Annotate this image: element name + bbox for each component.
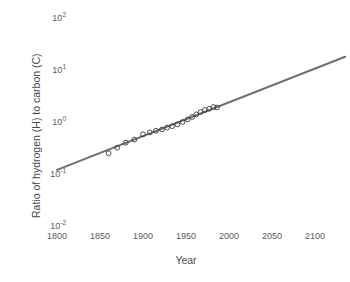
plot-area — [0, 0, 350, 282]
chart-container: 10-210-1100101102 1800185019001950200020… — [0, 0, 350, 282]
data-point-marker — [106, 151, 111, 156]
trend-line — [57, 57, 345, 170]
